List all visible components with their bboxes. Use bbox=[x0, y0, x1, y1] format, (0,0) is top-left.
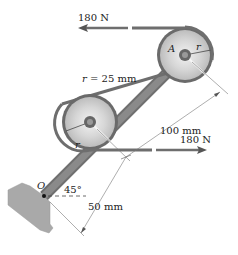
dimension-50mm bbox=[81, 157, 126, 233]
angle-label: 45° bbox=[64, 185, 82, 195]
force-label-top: 180 N bbox=[78, 13, 109, 23]
pivot-label-o: O bbox=[37, 181, 45, 191]
dimension-label-50mm: 50 mm bbox=[88, 202, 123, 212]
radius-label-a: r bbox=[196, 42, 201, 52]
extension-line-o bbox=[50, 202, 84, 236]
pulley-a-label: A bbox=[168, 44, 175, 54]
radius-value-text: = 25 mm bbox=[87, 73, 137, 84]
pivot-o bbox=[42, 194, 46, 198]
pulley-arm-diagram bbox=[0, 0, 238, 255]
radius-label-lower: r bbox=[75, 140, 80, 150]
force-label-bottom: 180 N bbox=[180, 135, 211, 145]
radius-value-label: r = 25 mm bbox=[82, 74, 136, 84]
